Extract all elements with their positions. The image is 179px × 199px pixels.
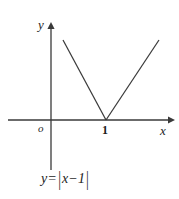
equation-caption: y=|x−1| [41, 172, 90, 186]
equation-abs-bar-open: | [57, 169, 62, 189]
graph-figure: y x o 1 y=|x−1| [0, 0, 179, 199]
y-axis-label: y [38, 18, 44, 31]
equation-abs-bar-close: | [85, 169, 90, 189]
origin-label: o [38, 123, 44, 134]
y-axis-arrowhead [47, 22, 54, 29]
x-axis-label: x [160, 124, 166, 137]
curve-right-branch [106, 40, 159, 120]
curve-left-branch [63, 40, 106, 120]
x-axis-arrowhead [168, 116, 175, 123]
equation-equals: = [47, 171, 57, 186]
equation-constant: 1 [78, 171, 85, 186]
equation-minus: − [68, 171, 78, 186]
x-tick-label-1: 1 [102, 124, 108, 136]
